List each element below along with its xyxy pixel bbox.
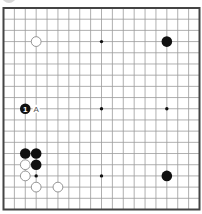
star-point	[100, 40, 103, 43]
white-stone	[20, 160, 30, 170]
black-stone	[31, 148, 42, 159]
white-stone	[53, 182, 63, 192]
board-labels: A	[33, 105, 40, 114]
black-stone	[162, 171, 173, 182]
go-board: 1 A	[0, 0, 202, 214]
black-stone	[20, 148, 31, 159]
star-point	[165, 107, 168, 110]
black-stone	[162, 36, 173, 47]
white-stone	[31, 182, 41, 192]
star-point	[100, 107, 103, 110]
black-stone	[31, 159, 42, 170]
star-point	[100, 174, 103, 177]
white-stone	[20, 171, 30, 181]
point-label: A	[33, 105, 39, 114]
go-board-svg: 1 A	[0, 0, 202, 214]
star-point	[34, 174, 37, 177]
move-number: 1	[23, 105, 28, 114]
white-stone	[31, 37, 41, 47]
stones: 1	[20, 36, 172, 192]
